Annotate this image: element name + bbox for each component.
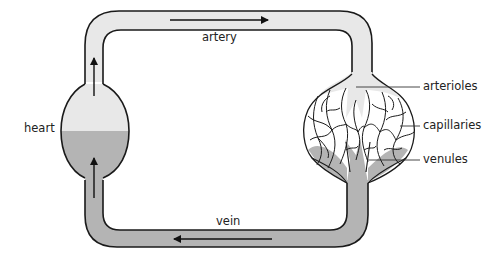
label-arterioles: arterioles	[423, 81, 478, 93]
heart	[61, 84, 129, 178]
label-vein: vein	[216, 216, 240, 228]
label-heart: heart	[24, 123, 55, 135]
artery-vessel	[85, 11, 372, 84]
label-capillaries: capillaries	[423, 120, 481, 132]
circulation-diagram: heart artery arterioles capillaries venu…	[0, 0, 495, 262]
label-venules: venules	[423, 154, 468, 166]
capillary-bed	[304, 72, 415, 183]
label-artery: artery	[202, 32, 237, 44]
